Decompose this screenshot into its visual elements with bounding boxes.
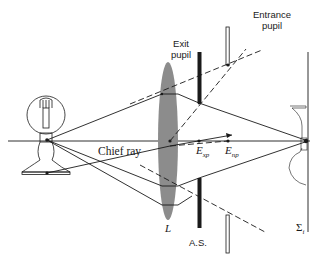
exit-pupil-point-label: Exp xyxy=(196,144,209,159)
exit-pupil-point-letter: E xyxy=(196,144,203,156)
image-plane-subscript: i xyxy=(302,228,304,236)
exit-pupil-label-line1: Exit xyxy=(171,38,191,49)
entrance-pupil-label-line1: Entrance xyxy=(253,9,291,20)
entrance-pupil-label: Entrance pupil xyxy=(253,9,291,31)
entrance-pupil-point-subscript: np xyxy=(232,151,239,159)
aperture-stop-label: A.S. xyxy=(189,237,207,248)
entrance-pupil-upper xyxy=(226,27,229,65)
aperture-stop-upper xyxy=(198,52,202,103)
entrance-pupil-point-label: Enp xyxy=(225,144,239,159)
optical-system-diagram xyxy=(0,0,326,268)
image-bulb-icon xyxy=(289,106,307,185)
exit-pupil-point-subscript: xp xyxy=(203,151,210,159)
light-bulb-object-icon xyxy=(22,96,70,175)
entrance-pupil-lower xyxy=(226,215,229,253)
image-plane-label: Σi xyxy=(296,221,304,236)
exit-pupil-label: Exit pupil xyxy=(171,38,191,60)
entrance-pupil-label-line2: pupil xyxy=(253,20,291,31)
exit-pupil-label-line2: pupil xyxy=(171,49,191,60)
chief-ray-label: Chief ray xyxy=(98,145,141,157)
aperture-stop-lower xyxy=(198,178,202,228)
entrance-pupil-point-letter: E xyxy=(225,144,232,156)
lens-label: L xyxy=(165,222,171,234)
